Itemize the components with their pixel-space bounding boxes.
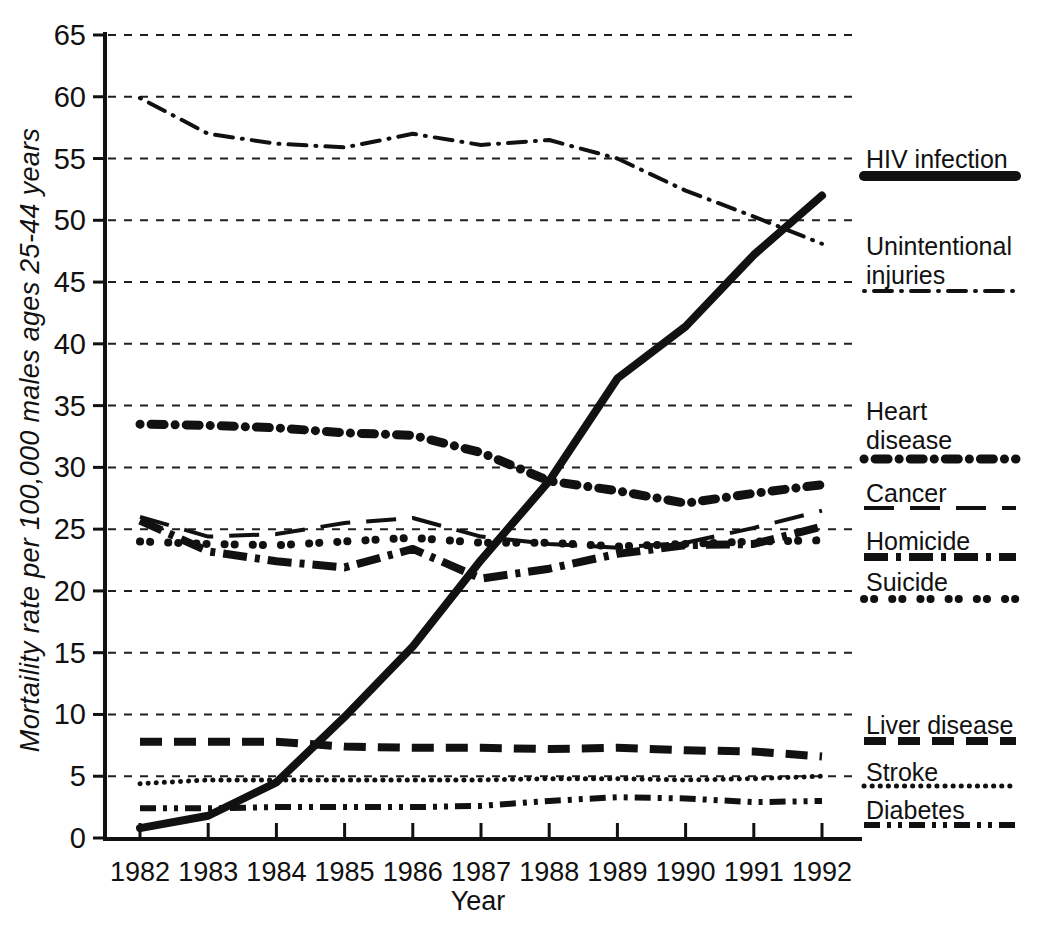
y-tick-label-10: 10 (54, 698, 86, 730)
legend-label-suicide: Suicide (866, 568, 948, 596)
x-ticks: 1982198319841985198619871988198919901991… (110, 823, 852, 887)
legend-entry-suicide: Suicide (864, 568, 1016, 599)
legend-label-heart: Heart (866, 397, 927, 425)
legend-label-unintentional: Unintentional (866, 232, 1012, 260)
y-ticks: 05101520253035404550556065 (54, 19, 104, 854)
legend-label-cancer: Cancer (866, 479, 947, 507)
x-tick-label-1989: 1989 (587, 857, 647, 887)
legend-entry-stroke: Stroke (864, 758, 1016, 786)
y-tick-label-45: 45 (54, 266, 86, 298)
x-tick-label-1990: 1990 (656, 857, 716, 887)
y-tick-label-55: 55 (54, 143, 86, 175)
x-tick-label-1983: 1983 (178, 857, 238, 887)
legend-entry-cancer: Cancer (864, 479, 1016, 508)
legend-entry-diabetes: Diabetes (864, 796, 1016, 825)
y-tick-label-35: 35 (54, 390, 86, 422)
x-axis-title: Year (451, 886, 506, 917)
series-line-unintentional (140, 98, 822, 244)
series-lines (140, 98, 822, 828)
x-tick-label-1982: 1982 (110, 857, 170, 887)
x-tick-label-1991: 1991 (724, 857, 784, 887)
x-tick-label-1987: 1987 (451, 857, 511, 887)
legend-label-diabetes: Diabetes (866, 796, 965, 824)
legend-entry-homicide: Homicide (864, 527, 1016, 557)
legend-label-homicide: Homicide (866, 527, 970, 555)
y-tick-label-60: 60 (54, 81, 86, 113)
legend-label-heart: disease (866, 426, 952, 454)
axes (103, 32, 862, 841)
chart-canvas: 0510152025303540455055606519821983198419… (0, 0, 1039, 937)
series-line-hiv (140, 196, 822, 829)
y-axis-title: Mortaility rate per 100,000 males ages 2… (15, 128, 46, 752)
y-tick-label-15: 15 (54, 637, 86, 669)
y-tick-label-30: 30 (54, 451, 86, 483)
legend: HIV infectionUnintentionalinjuriesHeartd… (864, 145, 1016, 825)
y-tick-label-25: 25 (54, 513, 86, 545)
legend-label-unintentional: injuries (866, 261, 945, 289)
x-tick-label-1984: 1984 (246, 857, 306, 887)
legend-label-stroke: Stroke (866, 758, 938, 786)
mortality-rate-line-chart: 0510152025303540455055606519821983198419… (0, 0, 1039, 937)
legend-entry-unintentional: Unintentionalinjuries (864, 232, 1016, 291)
y-tick-label-20: 20 (54, 575, 86, 607)
series-line-heart (140, 424, 822, 503)
y-tick-label-0: 0 (70, 822, 86, 854)
x-tick-label-1985: 1985 (315, 857, 375, 887)
legend-entry-heart: Heartdisease (864, 397, 1016, 459)
y-tick-label-50: 50 (54, 204, 86, 236)
legend-entry-hiv: HIV infection (864, 145, 1016, 176)
legend-entry-liver: Liver disease (864, 711, 1016, 741)
series-line-stroke (140, 776, 822, 783)
legend-label-hiv: HIV infection (866, 145, 1008, 173)
series-line-liver (140, 742, 822, 757)
y-tick-label-5: 5 (70, 760, 86, 792)
x-tick-label-1986: 1986 (383, 857, 443, 887)
y-tick-label-65: 65 (54, 19, 86, 51)
legend-label-liver: Liver disease (866, 711, 1013, 739)
x-tick-label-1988: 1988 (519, 857, 579, 887)
x-tick-label-1992: 1992 (792, 857, 852, 887)
y-tick-label-40: 40 (54, 328, 86, 360)
